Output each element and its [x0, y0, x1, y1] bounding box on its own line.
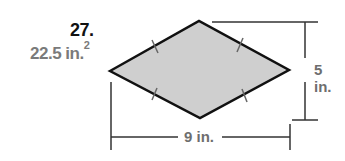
height-label: 5 in. — [312, 61, 345, 95]
width-label: 9 in. — [182, 128, 216, 145]
rhombus-diagram — [0, 0, 345, 161]
rhombus-shape — [110, 21, 289, 118]
